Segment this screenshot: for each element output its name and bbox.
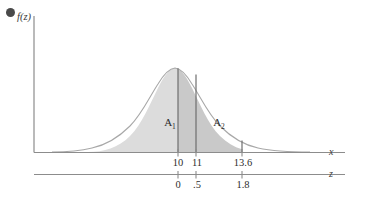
x-tick-label-13-6: 13.6 [234, 157, 252, 168]
x-tick-label-11: 11 [192, 157, 202, 168]
x-tick-label-10: 10 [173, 157, 184, 168]
region-label-a1-sub: 1 [172, 122, 176, 131]
region-label-a2-text: A [213, 116, 221, 128]
x-axis-label: x [329, 146, 333, 157]
region-label-a2: A2 [213, 116, 225, 131]
z-tick-label-1-8: 1.8 [236, 179, 249, 190]
y-axis-label: f(z) [17, 11, 31, 22]
z-tick-label-0: 0 [175, 179, 180, 190]
bullet-dot-icon [6, 8, 15, 17]
z-tick-label-0-5: .5 [193, 179, 201, 190]
region-label-a2-sub: 2 [221, 122, 225, 131]
region-label-a1-text: A [164, 116, 172, 128]
region-label-a1: A1 [164, 116, 176, 131]
z-axis-label: z [329, 168, 333, 179]
